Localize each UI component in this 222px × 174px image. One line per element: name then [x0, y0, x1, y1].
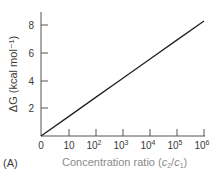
- series-line: [41, 21, 204, 136]
- x-tick-label: 102: [86, 139, 101, 151]
- x-ticks: 0 10 102 103 104 105 106: [38, 129, 209, 151]
- x-tick-label: 103: [113, 139, 128, 151]
- y-axis-title: ΔG (kcal mol⁻¹): [7, 36, 19, 112]
- x-tick-label: 105: [167, 139, 182, 151]
- y-tick-label: 8: [28, 20, 34, 31]
- x-tick-label: 10: [63, 140, 75, 151]
- x-axis-title: Concentration ratio (c2/c1): [62, 156, 187, 169]
- x-tick-label: 106: [194, 139, 209, 151]
- y-ticks: 2 4 6 8: [28, 20, 48, 114]
- x-tick-label: 0: [38, 140, 44, 151]
- chart: 2 4 6 8 0 10 102 103 104 105 106 ΔG (kca…: [0, 0, 222, 174]
- y-tick-label: 2: [28, 103, 34, 114]
- y-tick-label: 4: [28, 76, 34, 87]
- y-tick-label: 6: [28, 48, 34, 59]
- x-tick-label: 104: [140, 139, 155, 151]
- panel-label: (A): [3, 157, 18, 169]
